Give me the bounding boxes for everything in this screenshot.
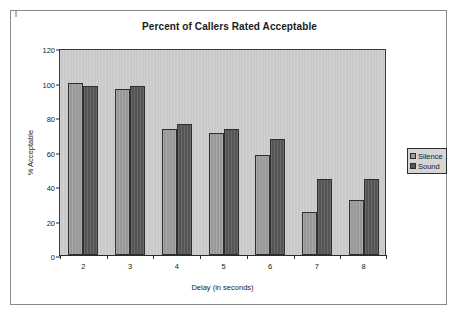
bar-sound-2 — [83, 86, 98, 255]
x-axis-tick-label: 8 — [362, 262, 366, 271]
x-axis-tick-label: 5 — [221, 262, 225, 271]
legend-swatch-icon — [410, 163, 416, 169]
x-axis-tick-mark — [200, 255, 201, 259]
y-axis-tick-mark — [56, 222, 60, 223]
bar-silence-2 — [68, 83, 83, 256]
chart-title: Percent of Callers Rated Acceptable — [11, 21, 448, 32]
x-axis-tick-mark — [60, 255, 61, 259]
legend-item-sound[interactable]: Sound — [410, 161, 443, 171]
bar-sound-8 — [364, 179, 379, 255]
bar-silence-6 — [255, 155, 270, 255]
x-axis-tick-label: 6 — [268, 262, 272, 271]
legend-label: Silence — [418, 152, 443, 161]
x-axis-tick-mark — [294, 255, 295, 259]
x-axis-tick-mark — [386, 255, 387, 259]
x-axis-tick-mark — [107, 255, 108, 259]
y-axis-tick-mark — [56, 50, 60, 51]
bar-silence-3 — [115, 89, 130, 255]
y-axis-tick-mark — [56, 119, 60, 120]
bar-silence-8 — [349, 200, 364, 255]
bar-sound-4 — [177, 124, 192, 255]
x-axis-title: Delay (in seconds) — [59, 283, 386, 292]
bar-silence-7 — [302, 212, 317, 255]
bar-silence-4 — [162, 129, 177, 255]
y-axis-tick-mark — [56, 84, 60, 85]
bar-sound-5 — [224, 129, 239, 255]
x-axis-tick-mark — [340, 255, 341, 259]
bar-sound-7 — [317, 179, 332, 255]
bar-sound-3 — [130, 86, 145, 255]
legend-item-silence[interactable]: Silence — [410, 151, 443, 161]
x-axis-tick-label: 7 — [315, 262, 319, 271]
bar-sound-6 — [270, 139, 285, 255]
x-axis-tick-mark — [247, 255, 248, 259]
scan-artifact — [15, 11, 17, 17]
chart-frame: Percent of Callers Rated Acceptable % Ac… — [10, 10, 447, 305]
legend-label: Sound — [418, 162, 440, 171]
y-axis-tick-mark — [56, 188, 60, 189]
x-axis-tick-label: 4 — [175, 262, 179, 271]
x-axis-tick-label: 2 — [81, 262, 85, 271]
legend-swatch-icon — [410, 153, 416, 159]
x-axis-tick-label: 3 — [128, 262, 132, 271]
x-axis-tick-mark — [153, 255, 154, 259]
y-axis-title: % Acceptable — [25, 49, 37, 256]
plot-area: 020406080100120 2345678 — [59, 49, 386, 256]
bar-silence-5 — [209, 133, 224, 255]
chart-legend: SilenceSound — [407, 148, 447, 174]
y-axis-tick-mark — [56, 153, 60, 154]
